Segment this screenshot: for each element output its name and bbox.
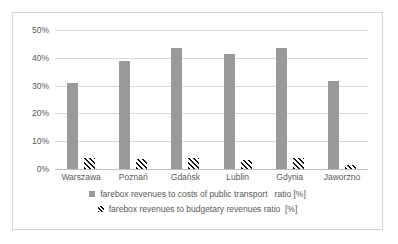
- bar-pair: [328, 30, 356, 169]
- bar-farebox-to-costs: [171, 48, 182, 169]
- bar-farebox-to-budget: [188, 158, 199, 169]
- legend-item-label: farebox revenues to budgetary revenues r…: [109, 204, 298, 214]
- legend-item[interactable]: farebox revenues to budgetary revenues r…: [98, 204, 298, 214]
- legend-item-label: farebox revenues to costs of public tran…: [100, 189, 306, 199]
- x-axis-tick-label: Warszawa: [55, 172, 107, 182]
- bar-pair: [67, 30, 95, 169]
- bar-group: [55, 30, 107, 169]
- legend-item[interactable]: farebox revenues to costs of public tran…: [89, 189, 306, 199]
- hatched-square-icon: [98, 206, 104, 212]
- bar-farebox-to-costs: [276, 48, 287, 169]
- bar-pair: [224, 30, 252, 169]
- bar-group: [159, 30, 211, 169]
- bar-pair: [276, 30, 304, 169]
- bar-group: [264, 30, 316, 169]
- bar-farebox-to-costs: [328, 81, 339, 169]
- bar-farebox-to-budget: [293, 158, 304, 169]
- bar-farebox-to-budget: [84, 158, 95, 169]
- y-axis-tick-label: 30%: [32, 81, 49, 91]
- x-axis-tick-label: Gdańsk: [159, 172, 211, 182]
- solid-gray-square-icon: [89, 191, 95, 197]
- y-axis-tick-label: 20%: [32, 108, 49, 118]
- bar-farebox-to-costs: [67, 83, 78, 169]
- bar-farebox-to-costs: [224, 54, 235, 169]
- x-axis-labels: WarszawaPoznańGdańskLublinGdyniaJaworzno: [55, 172, 368, 182]
- bar-group: [107, 30, 159, 169]
- x-axis-tick-label: Gdynia: [264, 172, 316, 182]
- bar-farebox-to-budget: [241, 160, 252, 169]
- chart-legend: farebox revenues to costs of public tran…: [13, 189, 382, 214]
- bar-farebox-to-costs: [119, 61, 130, 169]
- x-axis-tick-label: Jaworzno: [316, 172, 368, 182]
- x-axis-tick-label: Poznań: [107, 172, 159, 182]
- bar-group: [316, 30, 368, 169]
- x-axis-line: 0%: [55, 169, 368, 170]
- y-axis-tick-label: 50%: [32, 25, 49, 35]
- bars-layer: [55, 30, 368, 169]
- bar-pair: [119, 30, 147, 169]
- plot-area: 0%10%20%30%40%50%: [55, 30, 368, 169]
- chart-container: 0%10%20%30%40%50% WarszawaPoznańGdańskLu…: [12, 12, 383, 230]
- y-axis-tick-label: 0%: [37, 164, 49, 174]
- x-axis-tick-label: Lublin: [212, 172, 264, 182]
- bar-farebox-to-budget: [345, 165, 356, 169]
- y-axis-tick-label: 10%: [32, 136, 49, 146]
- bar-group: [212, 30, 264, 169]
- y-axis-tick-label: 40%: [32, 53, 49, 63]
- bar-farebox-to-budget: [136, 159, 147, 169]
- bar-pair: [171, 30, 199, 169]
